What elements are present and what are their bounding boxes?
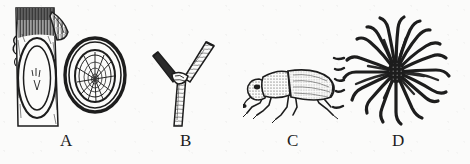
beetle-antenna — [243, 97, 251, 108]
gallery-fragment — [330, 52, 346, 114]
oval-canker-scar — [18, 38, 56, 118]
panel-c-illustration — [243, 45, 343, 129]
panel-label-a: A — [60, 132, 73, 149]
panel-b-illustration — [148, 24, 220, 128]
panel-label-d: D — [392, 132, 405, 149]
panel-label-b: B — [180, 132, 192, 149]
panel-d-egg-gallery — [336, 10, 462, 130]
panel-d-illustration — [336, 10, 462, 130]
panel-c-bark-beetle — [243, 45, 343, 129]
panel-a-cross-section — [62, 34, 128, 116]
panel-label-c: C — [287, 132, 299, 149]
beetle-pronotum — [262, 71, 290, 98]
cross-section-disc — [62, 34, 128, 116]
beetle-elytra — [288, 70, 334, 100]
central-chamber — [389, 62, 404, 82]
figure-plate: A B C D — [0, 0, 470, 164]
panel-b-forked-twig — [148, 24, 220, 128]
